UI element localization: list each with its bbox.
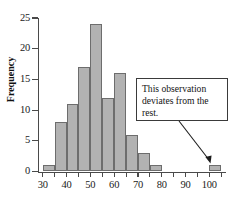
- histogram-screenshot: Frequency 0510152025 30405060708090100 T…: [0, 0, 233, 203]
- histogram-bar: [55, 122, 67, 171]
- x-axis-tick-label: 40: [54, 180, 80, 191]
- x-axis-tick: [66, 172, 67, 177]
- x-axis-tick: [221, 172, 222, 177]
- x-axis-tick-label: 80: [149, 180, 175, 191]
- x-axis-tick: [90, 172, 91, 177]
- y-axis-tick-label: 25: [8, 13, 30, 24]
- x-axis-tick-label: 60: [101, 180, 127, 191]
- chart-plot-area: Frequency 0510152025 30405060708090100 T…: [0, 0, 233, 203]
- y-axis-tick-label: 15: [8, 74, 30, 85]
- x-axis-tick: [161, 172, 162, 177]
- y-axis-tick: [32, 79, 38, 80]
- histogram-bar: [138, 153, 150, 171]
- x-axis-tick: [126, 172, 127, 177]
- x-axis-tick: [42, 172, 43, 177]
- histogram-bar: [43, 165, 55, 171]
- x-axis-tick: [197, 172, 198, 177]
- y-axis-tick: [32, 48, 38, 49]
- x-axis-tick: [102, 172, 103, 177]
- y-axis-tick: [32, 140, 38, 141]
- histogram-bar: [78, 67, 90, 171]
- histogram-bar: [102, 98, 114, 172]
- x-axis-tick-label: 90: [173, 180, 199, 191]
- histogram-bar: [150, 165, 162, 171]
- annotation-callout: This observation deviates from the rest.: [136, 78, 228, 121]
- x-axis-tick: [185, 172, 186, 177]
- histogram-bar: [67, 104, 79, 172]
- histogram-bar: [126, 135, 138, 172]
- x-axis-tick: [173, 172, 174, 177]
- histogram-bar: [114, 73, 126, 171]
- histogram-bar: [90, 24, 102, 171]
- x-axis-tick: [78, 172, 79, 177]
- x-axis-tick: [54, 172, 55, 177]
- y-axis-tick-label: 10: [8, 105, 30, 116]
- y-axis-line: [38, 18, 39, 172]
- annotation-text: This observation deviates from the rest.: [142, 83, 209, 118]
- y-axis-tick: [32, 171, 38, 172]
- y-axis-tick-label: 5: [8, 135, 30, 146]
- x-axis-tick: [209, 172, 210, 177]
- x-axis-tick: [149, 172, 150, 177]
- x-axis-tick: [137, 172, 138, 177]
- x-axis-tick-label: 50: [77, 180, 103, 191]
- x-axis-tick-label: 100: [196, 180, 222, 191]
- y-axis-tick-label: 20: [8, 43, 30, 54]
- y-axis-tick: [32, 110, 38, 111]
- histogram-bar: [209, 165, 221, 171]
- x-axis-tick: [114, 172, 115, 177]
- y-axis-tick-label: 0: [8, 166, 30, 177]
- x-axis-tick-label: 70: [125, 180, 151, 191]
- x-axis-tick-label: 30: [30, 180, 56, 191]
- y-axis-tick: [32, 17, 38, 18]
